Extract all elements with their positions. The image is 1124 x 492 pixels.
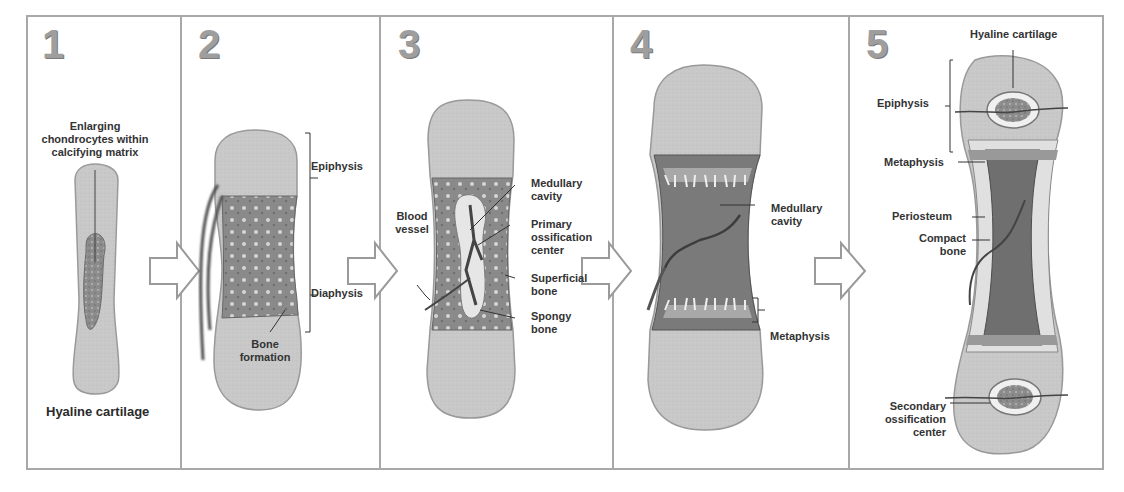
stage-number-2: 2	[198, 22, 219, 67]
label-line: center	[531, 244, 592, 257]
label-line: Enlarging	[30, 120, 160, 133]
label-line: ossification	[531, 231, 592, 244]
label-bone-formation: Bone formation	[235, 338, 295, 364]
label-line: cavity	[771, 215, 822, 228]
stage-number-3: 3	[398, 22, 419, 67]
label-secondary-ossification-center: Secondary ossification center	[870, 400, 946, 439]
label-line: bone	[531, 285, 587, 298]
label-line: formation	[235, 351, 295, 364]
label-line: Spongy	[531, 310, 571, 323]
label-medullary-cavity: Medullary cavity	[531, 177, 582, 203]
stage-number-5: 5	[866, 22, 887, 67]
label-line: Secondary	[870, 400, 946, 413]
label-epiphysis-5: Epiphysis	[877, 97, 929, 110]
label-blood-vessel: Blood vessel	[390, 210, 434, 236]
label-hyaline-cartilage: Hyaline cartilage	[46, 405, 149, 418]
label-compact-bone: Compact bone	[900, 232, 966, 258]
label-spongy-bone: Spongy bone	[531, 310, 571, 336]
label-line: Compact	[900, 232, 966, 245]
label-line: Medullary	[531, 177, 582, 190]
label-line: Bone	[235, 338, 295, 351]
label-line: calcifying matrix	[30, 146, 160, 159]
label-periosteum: Periosteum	[892, 210, 952, 223]
stage-number-1: 1	[42, 22, 63, 67]
cartilage-model-1	[73, 164, 119, 394]
label-medullary-cavity-4: Medullary cavity	[771, 202, 822, 228]
label-line: chondrocytes within	[30, 133, 160, 146]
label-line: bone	[900, 245, 966, 258]
stage-number-4: 4	[630, 22, 651, 67]
label-hyaline-cartilage-5: Hyaline cartilage	[970, 28, 1057, 41]
label-line: Primary	[531, 218, 592, 231]
label-superficial-bone: Superficial bone	[531, 272, 587, 298]
label-line: ossification	[870, 413, 946, 426]
label-line: cavity	[531, 190, 582, 203]
bone-model-2	[201, 130, 318, 410]
label-line: bone	[531, 323, 571, 336]
label-epiphysis: Epiphysis	[311, 160, 363, 173]
label-primary-ossification-center: Primary ossification center	[531, 218, 592, 257]
label-metaphysis-4: Metaphysis	[770, 330, 830, 343]
label-line: Blood	[390, 210, 434, 223]
label-line: Superficial	[531, 272, 587, 285]
label-line: center	[870, 426, 946, 439]
label-line: Medullary	[771, 202, 822, 215]
label-metaphysis-5: Metaphysis	[884, 156, 944, 169]
label-chondrocytes: Enlarging chondrocytes within calcifying…	[30, 120, 160, 159]
label-line: vessel	[390, 223, 434, 236]
bone-model-3	[417, 100, 515, 418]
bone-model-4	[648, 65, 765, 430]
label-diaphysis: Diaphysis	[311, 287, 363, 300]
